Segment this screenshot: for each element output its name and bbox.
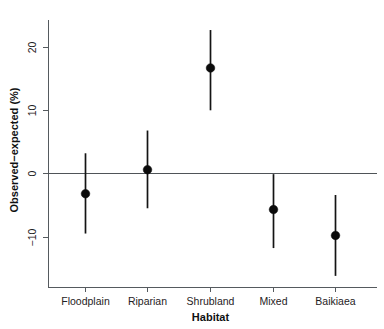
y-axis-title: Observed−expected (%): [8, 87, 20, 212]
y-tick-label-10: 10: [26, 105, 38, 117]
data-point-marker: [331, 231, 340, 240]
data-point-marker: [269, 205, 278, 214]
y-tick-label-neg10: −10: [26, 228, 38, 246]
chart-figure: 20 10 0 −10 Observed−expected (%) Floodp…: [0, 0, 384, 329]
y-tick-label-20: 20: [26, 42, 38, 54]
x-tick-label-floodplain: Floodplain: [61, 295, 110, 307]
data-point-marker: [206, 64, 215, 73]
x-axis-title: Habitat: [192, 311, 230, 323]
data-series-layer: [81, 30, 340, 276]
data-point-marker: [143, 165, 152, 174]
scatter-plot-svg: 20 10 0 −10 Observed−expected (%) Floodp…: [0, 0, 384, 329]
y-tick-label-0: 0: [26, 170, 38, 176]
data-point-marker: [81, 189, 90, 198]
x-tick-label-riparian: Riparian: [128, 295, 167, 307]
x-tick-label-baikiaea: Baikiaea: [315, 295, 355, 307]
x-tick-label-mixed: Mixed: [259, 295, 287, 307]
x-tick-label-shrubland: Shrubland: [187, 295, 235, 307]
